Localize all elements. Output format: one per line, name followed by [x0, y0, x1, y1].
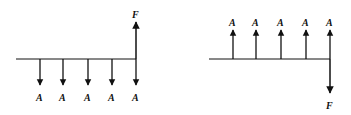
label-a: A — [131, 92, 139, 103]
label-a: A — [251, 17, 259, 28]
label-a: A — [325, 17, 333, 28]
label-a: A — [107, 92, 115, 103]
label-f: F — [325, 100, 333, 111]
label-a: A — [58, 92, 66, 103]
right-diagram: A A A A A F — [209, 17, 333, 111]
label-f: F — [131, 9, 139, 20]
label-a: A — [276, 17, 284, 28]
label-a: A — [83, 92, 91, 103]
left-diagram: A A A A A F — [16, 9, 139, 103]
cash-flow-diagrams: A A A A A F A A A A A F — [0, 0, 351, 115]
label-a: A — [301, 17, 309, 28]
label-a: A — [35, 92, 43, 103]
label-a: A — [228, 17, 236, 28]
